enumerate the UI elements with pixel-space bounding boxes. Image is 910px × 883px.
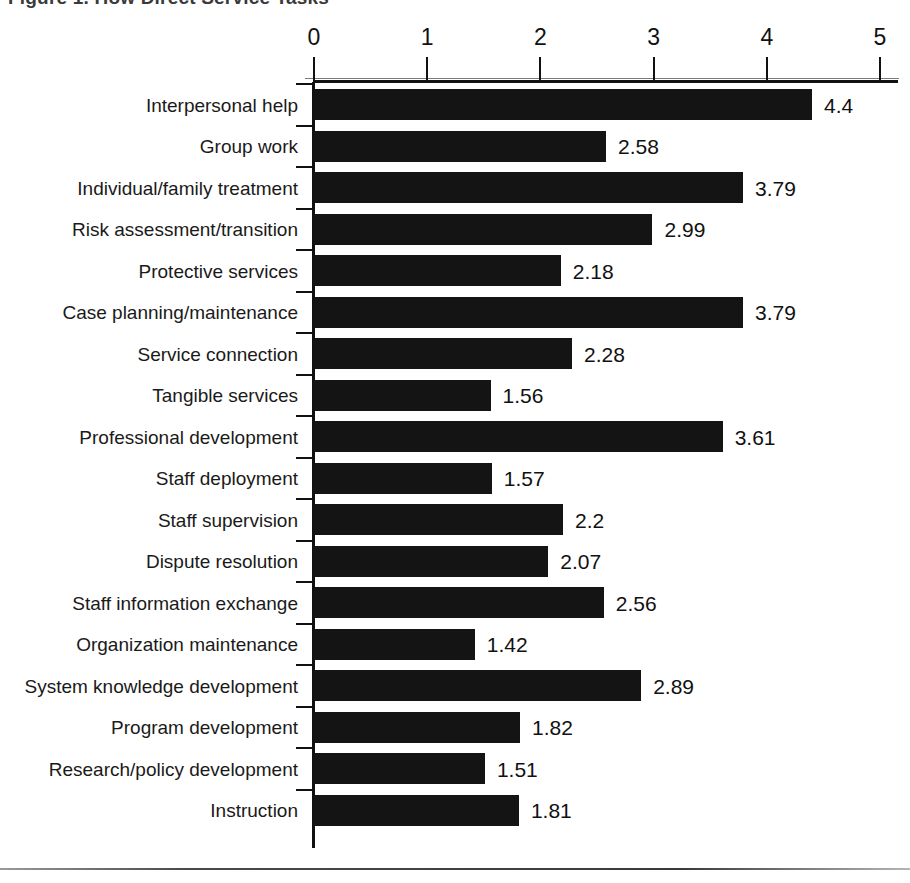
category-label: Staff deployment [156, 469, 298, 488]
bar-row: Dispute resolution2.07 [0, 541, 910, 583]
x-axis-tick-label: 1 [421, 26, 434, 49]
bar-row: Staff deployment1.57 [0, 458, 910, 500]
bar [314, 338, 572, 369]
bar-value-label: 2.07 [560, 551, 601, 572]
bar-row: Service connection2.28 [0, 333, 910, 375]
category-label: Research/policy development [49, 759, 298, 778]
y-axis-tick [296, 664, 314, 666]
bar-value-label: 2.28 [584, 343, 625, 364]
bar [314, 463, 492, 494]
bar-row: Individual/family treatment3.79 [0, 167, 910, 209]
x-axis-tick [653, 57, 655, 81]
bar-value-label: 4.4 [824, 94, 853, 115]
bar-row: Staff supervision2.2 [0, 499, 910, 541]
y-axis-tick [296, 623, 314, 625]
bar [314, 255, 561, 286]
bar [314, 753, 485, 784]
bar-row: Program development1.82 [0, 707, 910, 749]
bar-row: System knowledge development2.89 [0, 665, 910, 707]
bar-value-label: 1.57 [504, 468, 545, 489]
y-axis-tick [296, 747, 314, 749]
bar [314, 214, 652, 245]
x-axis-tick-label: 0 [308, 26, 321, 49]
category-label: Instruction [210, 801, 298, 820]
y-axis-tick [296, 415, 314, 417]
y-axis-tick [296, 457, 314, 459]
bar-value-label: 3.61 [735, 426, 776, 447]
category-label: Tangible services [152, 386, 298, 405]
x-axis-tick-label: 5 [874, 26, 887, 49]
category-label: Dispute resolution [146, 552, 298, 571]
bar-row: Tangible services1.56 [0, 375, 910, 417]
category-label: Service connection [137, 344, 298, 363]
bar [314, 421, 723, 452]
bar-row: Instruction1.81 [0, 790, 910, 832]
x-axis-tick-label: 4 [760, 26, 773, 49]
bar-row: Interpersonal help4.4 [0, 84, 910, 126]
page-title: Figure 1. How Direct Service Tasks [8, 0, 329, 9]
bar-value-label: 3.79 [755, 302, 796, 323]
y-axis-tick [296, 332, 314, 334]
y-axis-tick [296, 208, 314, 210]
bar-value-label: 1.56 [503, 385, 544, 406]
bar [314, 89, 812, 120]
bar [314, 546, 548, 577]
bar-row: Group work2.58 [0, 126, 910, 168]
x-axis-tick [313, 57, 315, 81]
bar [314, 504, 563, 535]
bar-value-label: 2.56 [616, 592, 657, 613]
bar-value-label: 1.81 [531, 800, 572, 821]
category-label: Protective services [139, 261, 298, 280]
bar [314, 795, 519, 826]
category-label: Interpersonal help [146, 95, 298, 114]
y-axis-tick [296, 291, 314, 293]
bar-value-label: 2.99 [664, 219, 705, 240]
bar-row: Research/policy development1.51 [0, 748, 910, 790]
bar-row: Case planning/maintenance3.79 [0, 292, 910, 334]
y-axis-tick [296, 374, 314, 376]
bar-row: Professional development3.61 [0, 416, 910, 458]
bar [314, 712, 520, 743]
x-axis-hairline [305, 78, 899, 79]
bar [314, 629, 475, 660]
category-label: Individual/family treatment [77, 178, 298, 197]
bar-value-label: 2.89 [653, 675, 694, 696]
y-axis-tick [296, 166, 314, 168]
bar [314, 587, 604, 618]
bar-value-label: 2.58 [618, 136, 659, 157]
x-axis-line [313, 80, 898, 83]
bar-value-label: 3.79 [755, 177, 796, 198]
bar-value-label: 1.82 [532, 717, 573, 738]
y-axis-tick [296, 789, 314, 791]
bar [314, 297, 743, 328]
x-axis-tick-label: 2 [534, 26, 547, 49]
category-label: Program development [111, 718, 298, 737]
bar [314, 131, 606, 162]
category-label: Group work [200, 137, 298, 156]
bottom-divider [0, 868, 910, 870]
y-axis-tick [296, 540, 314, 542]
y-axis-tick [296, 581, 314, 583]
bar-row: Risk assessment/transition2.99 [0, 209, 910, 251]
category-label: Risk assessment/transition [72, 220, 298, 239]
y-axis-tick [296, 706, 314, 708]
category-label: Organization maintenance [76, 635, 298, 654]
bar [314, 380, 491, 411]
bar-row: Organization maintenance1.42 [0, 624, 910, 666]
category-label: System knowledge development [24, 676, 298, 695]
x-axis-tick [879, 57, 881, 81]
bar-value-label: 1.51 [497, 758, 538, 779]
category-label: Case planning/maintenance [62, 303, 298, 322]
category-label: Professional development [79, 427, 298, 446]
bar-value-label: 1.42 [487, 634, 528, 655]
bar [314, 670, 641, 701]
x-axis-tick [426, 57, 428, 81]
category-label: Staff information exchange [72, 593, 298, 612]
y-axis-tick [296, 125, 314, 127]
y-axis-tick [296, 83, 314, 85]
x-axis-tick-label: 3 [647, 26, 660, 49]
bar [314, 172, 743, 203]
category-label: Staff supervision [158, 510, 298, 529]
bar-row: Staff information exchange2.56 [0, 582, 910, 624]
y-axis-tick [296, 498, 314, 500]
